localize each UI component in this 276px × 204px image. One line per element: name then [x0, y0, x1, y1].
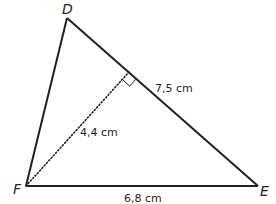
vertex-label-e: E — [260, 183, 269, 199]
vertex-label-d: D — [62, 1, 73, 17]
triangle-diagram: D E F 7,5 cm 4,4 cm 6,8 cm — [0, 0, 276, 204]
side-de-length: 7,5 cm — [155, 82, 193, 95]
right-angle-marker — [122, 79, 136, 86]
vertex-label-f: F — [13, 181, 22, 197]
side-de — [67, 18, 258, 186]
side-fe-length: 6,8 cm — [124, 192, 162, 204]
altitude-length: 4,4 cm — [80, 126, 118, 139]
side-df — [26, 18, 67, 186]
